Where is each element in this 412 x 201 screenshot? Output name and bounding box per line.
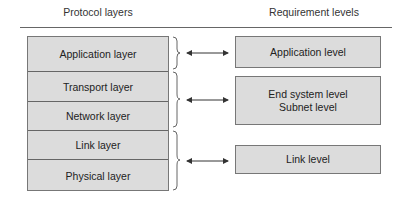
connectors: [0, 0, 412, 201]
brace-icon: [173, 131, 180, 190]
brace-icon: [173, 37, 180, 69]
brace-icon: [173, 72, 180, 127]
